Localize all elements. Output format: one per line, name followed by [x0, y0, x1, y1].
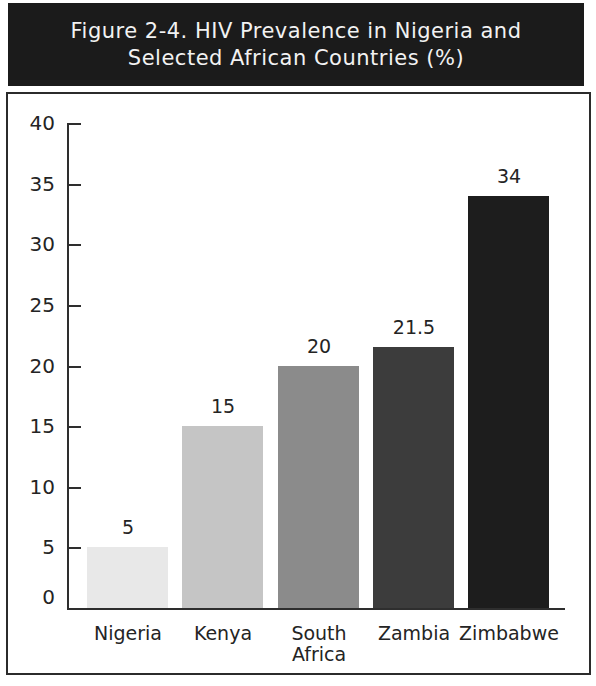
- bar-value-label: 34: [449, 164, 569, 188]
- x-category-label: Zimbabwe: [454, 623, 564, 644]
- figure-title-line2: Selected African Countries (%): [8, 45, 584, 72]
- x-category-label: Nigeria: [73, 623, 183, 644]
- bar-chart-plot: 05101520253035405Nigeria15Kenya20SouthAf…: [8, 94, 589, 673]
- y-tick: [67, 426, 81, 428]
- bar-value-label: 21.5: [354, 315, 474, 339]
- figure-page: Figure 2-4. HIV Prevalence in Nigeria an…: [0, 0, 596, 686]
- y-tick: [67, 123, 81, 125]
- y-tick: [67, 305, 81, 307]
- bar-value-label: 5: [68, 515, 188, 539]
- y-tick-label: 35: [8, 171, 55, 197]
- y-tick: [67, 487, 81, 489]
- y-tick-label: 15: [8, 413, 55, 439]
- bar-nigeria: [87, 547, 168, 608]
- y-tick: [67, 244, 81, 246]
- bar-zimbabwe: [468, 196, 549, 608]
- figure-title-line1: Figure 2-4. HIV Prevalence in Nigeria an…: [8, 18, 584, 45]
- x-category-label: Zambia: [359, 623, 469, 644]
- y-tick-label: 30: [8, 231, 55, 257]
- y-tick-label: 25: [8, 292, 55, 318]
- bar-zambia: [373, 347, 454, 608]
- y-tick-label: 40: [8, 110, 55, 136]
- bar-value-label: 15: [163, 394, 283, 418]
- y-tick-label: 20: [8, 353, 55, 379]
- y-tick-label: 0: [8, 584, 55, 610]
- y-tick: [67, 184, 81, 186]
- y-tick-label: 10: [8, 474, 55, 500]
- x-axis-line: [67, 608, 565, 610]
- x-category-label: Kenya: [168, 623, 278, 644]
- figure-title-bar: Figure 2-4. HIV Prevalence in Nigeria an…: [8, 3, 584, 86]
- y-tick: [67, 547, 81, 549]
- bar-kenya: [182, 426, 263, 608]
- y-tick: [67, 366, 81, 368]
- chart-area: 05101520253035405Nigeria15Kenya20SouthAf…: [6, 92, 591, 675]
- bar-south-africa: [278, 366, 359, 608]
- y-tick-label: 5: [8, 534, 55, 560]
- x-category-label: SouthAfrica: [264, 623, 374, 665]
